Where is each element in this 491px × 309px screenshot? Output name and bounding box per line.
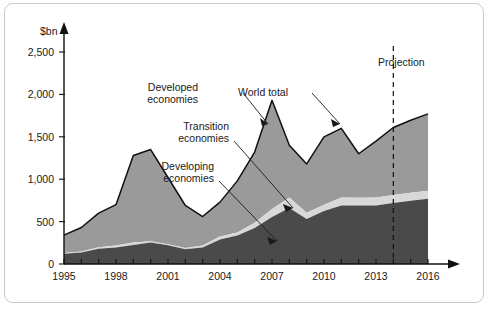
chart-areas bbox=[64, 100, 428, 264]
y-tick-label: 2,000 bbox=[28, 88, 54, 100]
x-tick-label: 1995 bbox=[52, 270, 76, 282]
y-tick-label: 2,500 bbox=[28, 46, 54, 58]
x-tick-label: 2001 bbox=[156, 270, 180, 282]
x-tick-label: 2007 bbox=[260, 270, 284, 282]
y-tick-label: 500 bbox=[36, 216, 54, 228]
x-axis-tick-labels: 19951998200120042007201020132016 bbox=[52, 270, 440, 282]
label-developing-economies-line2: economies bbox=[163, 172, 214, 184]
x-tick-label: 2010 bbox=[312, 270, 336, 282]
x-tick-label: 2004 bbox=[208, 270, 232, 282]
label-transition-economies-line2: economies bbox=[178, 132, 229, 144]
leader-world-total bbox=[312, 93, 340, 124]
label-world-total: World total bbox=[238, 86, 288, 98]
y-axis-unit-label: $bn bbox=[40, 25, 58, 37]
label-developing-economies-line1: Developing bbox=[161, 160, 214, 172]
x-tick-label: 2016 bbox=[416, 270, 440, 282]
x-tick-label: 2013 bbox=[364, 270, 388, 282]
label-developed-economies-line2: economies bbox=[147, 93, 198, 105]
label-projection: Projection bbox=[378, 56, 425, 68]
label-developed-economies-line1: Developed bbox=[148, 81, 198, 93]
x-axis-arrowhead bbox=[448, 260, 460, 269]
chart-figure: 05001,0001,5002,0002,500 199519982001200… bbox=[0, 0, 491, 309]
y-axis-arrowhead bbox=[60, 22, 69, 34]
x-tick-label: 1998 bbox=[104, 270, 128, 282]
y-tick-label: 0 bbox=[48, 258, 54, 270]
y-tick-label: 1,000 bbox=[28, 173, 54, 185]
area-chart: 05001,0001,5002,0002,500 199519982001200… bbox=[0, 0, 491, 309]
label-transition-economies-line1: Transition bbox=[183, 120, 229, 132]
y-axis-tick-labels: 05001,0001,5002,0002,500 bbox=[28, 46, 54, 270]
y-tick-label: 1,500 bbox=[28, 131, 54, 143]
